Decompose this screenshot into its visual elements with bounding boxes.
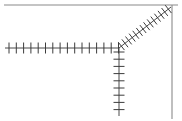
- canvas-background: [0, 0, 182, 121]
- diagram-canvas: [0, 0, 182, 121]
- diagram-svg: [0, 0, 182, 121]
